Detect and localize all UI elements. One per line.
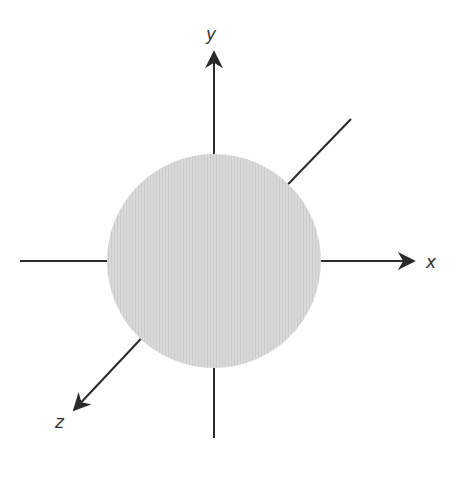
coordinate-diagram: y x z — [0, 0, 460, 483]
z-axis-label: z — [54, 412, 65, 432]
x-axis-label: x — [425, 252, 437, 272]
y-axis-label: y — [205, 24, 217, 44]
sphere — [107, 154, 321, 368]
